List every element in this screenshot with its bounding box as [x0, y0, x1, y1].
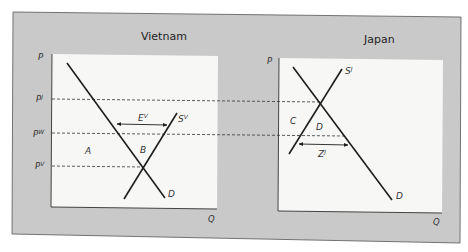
region-a-label: A: [84, 146, 91, 156]
vietnam-x-axis-label: Q: [208, 214, 215, 224]
japan-title: Japan: [363, 33, 395, 46]
vietnam-y-axis-label: P: [38, 52, 44, 62]
vietnam-title: Vietnam: [141, 30, 187, 43]
region-b-label: B: [140, 145, 146, 155]
region-d-label: D: [316, 122, 323, 132]
vietnam-demand-label: D: [168, 189, 175, 199]
japan-x-axis-label: Q: [433, 217, 440, 227]
japan-demand-label: D: [396, 191, 403, 201]
japan-y-axis-label: P: [267, 56, 273, 66]
region-c-label: C: [290, 116, 297, 126]
trade-diagram: Vietnam P Q PJ PW PV D SV EV A B Japan P…: [0, 0, 468, 252]
vietnam-plot-area: [51, 54, 218, 209]
